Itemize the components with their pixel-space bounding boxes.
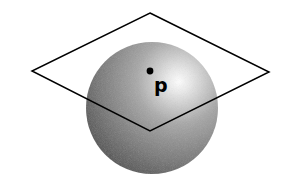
point-p-label: p	[154, 74, 168, 96]
point-p-dot	[147, 68, 154, 75]
tangent-plane-sphere-figure: p	[0, 0, 288, 179]
